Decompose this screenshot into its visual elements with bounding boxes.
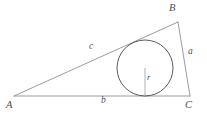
vertex-label-b: B (169, 3, 175, 14)
triangle-side-ab (14, 22, 178, 96)
side-label-b: b (101, 96, 106, 106)
side-label-a: a (188, 47, 193, 57)
geometry-figure: A B C a b c r (0, 0, 207, 114)
vertex-label-a: A (6, 100, 12, 111)
radius-label-r: r (147, 73, 150, 82)
vertex-label-c: C (185, 100, 192, 111)
side-label-c: c (89, 42, 93, 52)
triangle-side-bc (178, 22, 190, 96)
